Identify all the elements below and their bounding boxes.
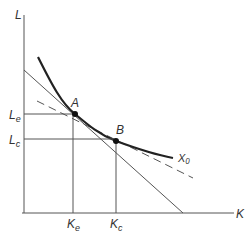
isoquant-diagram: L K X₀ A B Le Lc Ke Kc bbox=[0, 0, 252, 234]
point-b-label: B bbox=[116, 123, 124, 137]
point-a bbox=[72, 111, 78, 117]
lc-label: Lc bbox=[9, 133, 21, 149]
isoquant-label: X₀ bbox=[177, 152, 190, 164]
point-b bbox=[113, 138, 119, 144]
l-axis-label: L bbox=[15, 8, 22, 22]
le-label: Le bbox=[9, 108, 21, 124]
isocost-line-solid bbox=[24, 70, 183, 213]
k-axis-label: K bbox=[236, 207, 245, 221]
kc-label: Kc bbox=[110, 217, 123, 233]
point-a-label: A bbox=[70, 96, 79, 110]
ke-label: Ke bbox=[67, 217, 80, 233]
